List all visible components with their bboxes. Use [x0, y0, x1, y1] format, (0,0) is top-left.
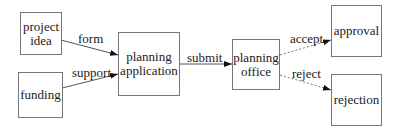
node-label-line: idea — [23, 34, 59, 48]
node-label-line: planning — [233, 51, 279, 65]
node-label-line: planning — [120, 50, 178, 64]
node-approval: approval — [331, 5, 382, 57]
node-label: rejection — [334, 93, 379, 107]
edge-label-reject: reject — [292, 67, 321, 80]
node-rejection: rejection — [331, 74, 382, 126]
edge-label-submit: submit — [187, 51, 222, 64]
node-label: approval — [334, 24, 379, 38]
node-project-idea: projectidea — [20, 12, 62, 55]
edge-label-support: support — [72, 66, 111, 79]
node-label-line: office — [233, 65, 279, 79]
node-planning-application: planningapplication — [118, 32, 180, 96]
node-label: funding — [20, 88, 60, 102]
node-label-line: project — [23, 20, 59, 34]
edge-label-accept: accept — [290, 32, 323, 45]
node-planning-office: planningoffice — [232, 39, 280, 90]
edge-label-form: form — [78, 32, 103, 45]
node-funding: funding — [18, 72, 63, 118]
node-label-line: application — [120, 64, 178, 78]
